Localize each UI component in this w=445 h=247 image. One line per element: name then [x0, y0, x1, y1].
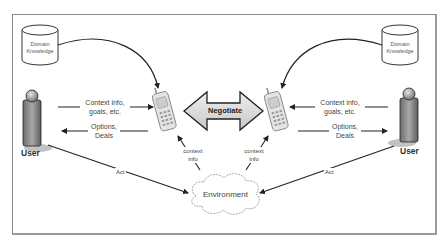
context-label-line1: Context info,	[81, 98, 129, 107]
context-label-line1: Context info,	[316, 98, 364, 107]
env-context-label-left: context info	[180, 147, 206, 163]
knowledge-label-line2: Knowledge	[26, 48, 54, 55]
user-label-left: User	[21, 148, 40, 158]
knowledge-label-left: Domain Knowledge	[26, 41, 54, 55]
phone-icon-right	[262, 85, 289, 132]
user-figure-left	[23, 90, 52, 152]
context-label-line2: goals, etc.	[81, 107, 129, 116]
knowledge-label-line1: Domain	[386, 41, 414, 48]
env-context-line1: context	[242, 147, 266, 155]
options-label-left: Options, Deals	[88, 122, 120, 140]
diagram-canvas	[0, 0, 445, 247]
user-figure-right	[388, 88, 418, 147]
context-info-label-right: Context info, goals, etc.	[315, 98, 365, 116]
options-label-line2: Deals	[330, 131, 360, 140]
options-label-right: Options, Deals	[329, 122, 361, 140]
env-context-line1: context	[181, 147, 205, 155]
env-context-label-right: context info	[241, 147, 267, 163]
act-label-left: Act	[115, 168, 126, 177]
act-label-right: Act	[324, 168, 335, 177]
env-context-line2: info	[242, 155, 266, 163]
environment-label: Environment	[203, 190, 248, 199]
knowledge-label-right: Domain Knowledge	[386, 41, 414, 55]
context-info-label-left: Context info, goals, etc.	[80, 98, 130, 116]
options-label-line1: Options,	[330, 122, 360, 131]
knowledge-label-line1: Domain	[26, 41, 54, 48]
knowledge-arrow-right	[282, 39, 382, 88]
phone-icon-left	[150, 85, 177, 132]
knowledge-label-line2: Knowledge	[386, 48, 414, 55]
knowledge-arrow-left	[58, 39, 158, 88]
context-label-line2: goals, etc.	[316, 107, 364, 116]
negotiate-label: Negotiate	[208, 106, 242, 115]
user-label-right: User	[400, 146, 419, 156]
options-label-line1: Options,	[89, 122, 119, 131]
env-context-line2: info	[181, 155, 205, 163]
options-label-line2: Deals	[89, 131, 119, 140]
